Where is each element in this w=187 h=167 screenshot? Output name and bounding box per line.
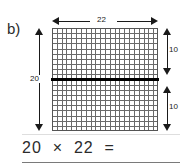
problem-label: b) [7, 21, 20, 36]
lower-half-dimension-label: 10 [168, 103, 179, 111]
equation-text: 20 × 22 = [22, 140, 115, 156]
upper-half-dimension-label: 10 [168, 46, 179, 54]
height-arrow-down-head-icon [35, 124, 43, 131]
width-arrow-left-shaft [58, 21, 90, 22]
width-dimension-label: 22 [96, 16, 107, 24]
height-dimension-label: 20 [29, 75, 40, 83]
width-arrow-right-shaft [117, 21, 151, 22]
area-model-grid [52, 28, 158, 131]
width-arrow-right-head-icon [151, 17, 158, 25]
upper-half-arrow-down-head-icon [163, 68, 171, 75]
answer-rule [22, 162, 180, 163]
grid-midline-divider [51, 78, 159, 81]
upper-divider-rule [22, 134, 180, 135]
worksheet-problem-panel: b) 22 20 10 10 20 × 22 [0, 0, 187, 167]
lower-half-arrow-down-head-icon [163, 124, 171, 131]
